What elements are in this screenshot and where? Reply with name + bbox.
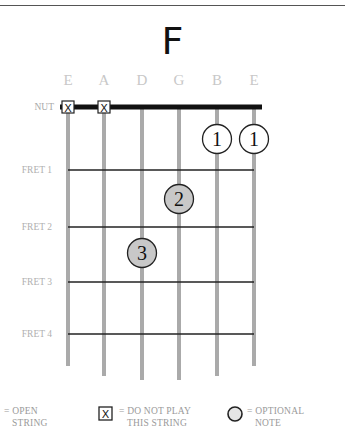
nut-label: NUT bbox=[34, 102, 54, 112]
fret-label: FRET 2 bbox=[22, 222, 52, 232]
svg-text:X: X bbox=[102, 408, 110, 421]
string-name-label: E bbox=[63, 72, 72, 88]
muted-x-icon: X bbox=[64, 102, 72, 115]
finger-number: 2 bbox=[174, 188, 184, 210]
legend-optional-note: = OPTIONAL NOTE bbox=[247, 405, 304, 429]
muted-string-marker: X bbox=[98, 101, 110, 115]
fret-label: FRET 3 bbox=[22, 277, 52, 287]
string-name-label: G bbox=[174, 72, 185, 88]
legend-optional-line1: = OPTIONAL bbox=[247, 405, 304, 417]
finger-dot: 1 bbox=[240, 125, 269, 154]
fret-label: FRET 1 bbox=[22, 165, 52, 175]
legend-dnp-line2: THIS STRING bbox=[119, 417, 191, 429]
legend-open-line2: STRING bbox=[4, 417, 48, 429]
fret-label: FRET 4 bbox=[22, 329, 52, 339]
do-not-play-icon: X bbox=[98, 406, 114, 422]
string-name-label: B bbox=[212, 72, 222, 88]
muted-x-icon: X bbox=[100, 102, 108, 115]
chord-diagram: EADGBE NUT FRET 1FRET 2FRET 3FRET 4 XX 1… bbox=[0, 0, 345, 445]
legend-open-string: = OPEN STRING bbox=[4, 405, 48, 429]
string-name-label: D bbox=[137, 72, 148, 88]
string-name-label: A bbox=[99, 72, 110, 88]
legend-do-not-play: = DO NOT PLAY THIS STRING bbox=[119, 405, 191, 429]
finger-number: 1 bbox=[212, 128, 222, 150]
finger-dot: 2 bbox=[165, 185, 194, 214]
finger-number: 3 bbox=[137, 242, 147, 264]
muted-string-marker: X bbox=[62, 101, 74, 115]
optional-note-icon bbox=[226, 405, 244, 423]
finger-number: 1 bbox=[249, 128, 259, 150]
legend-dnp-line1: = DO NOT PLAY bbox=[119, 405, 191, 417]
finger-dot: 3 bbox=[128, 239, 157, 268]
nut bbox=[60, 105, 262, 110]
legend-open-line1: = OPEN bbox=[4, 405, 48, 417]
legend-optional-line2: NOTE bbox=[247, 417, 304, 429]
string-name-label: E bbox=[249, 72, 258, 88]
finger-dot: 1 bbox=[203, 125, 232, 154]
